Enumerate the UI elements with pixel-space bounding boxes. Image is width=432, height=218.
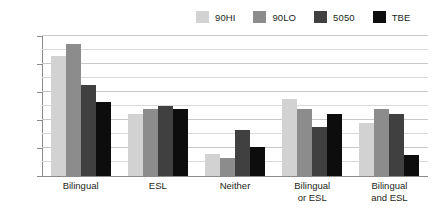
x-axis-category-label: Bilingual [42,180,119,204]
y-axis-tick-mark [37,64,42,65]
x-axis-line [42,176,428,177]
x-axis-category-label: Bilingual and ESL [351,180,428,204]
legend-label: 90LO [272,12,296,23]
legend-swatch-icon [373,11,386,23]
legend-swatch-icon [314,11,327,23]
x-axis-category-label: Bilingual or ESL [274,180,351,204]
legend-label: TBE [392,12,411,23]
plot-area [42,36,428,176]
y-axis-tick-mark [37,176,42,177]
bar[interactable] [327,114,342,176]
bar[interactable] [312,127,327,176]
bar[interactable] [389,114,404,176]
legend-entry[interactable]: 90LO [253,11,296,23]
legend-entry[interactable]: TBE [373,11,411,23]
bar[interactable] [297,109,312,176]
bars-layer [42,36,428,176]
legend-label: 90HI [215,12,235,23]
bar[interactable] [66,44,81,176]
bar[interactable] [158,106,173,176]
y-axis-tick-mark [37,92,42,93]
bar[interactable] [359,123,374,176]
bar[interactable] [173,109,188,176]
y-axis-tick-mark [37,120,42,121]
bar[interactable] [81,85,96,176]
bar[interactable] [96,102,111,176]
bar-chart: 90HI90LO5050TBE 0%20%40%60%80%100% Bilin… [0,0,432,218]
legend-label: 5050 [333,12,355,23]
x-axis-category-label: ESL [119,180,196,204]
legend-entry[interactable]: 5050 [314,11,355,23]
bar[interactable] [128,114,143,176]
bar-group [119,36,196,176]
bar[interactable] [404,155,419,176]
legend-swatch-icon [196,11,209,23]
y-axis-tick-mark [37,148,42,149]
x-axis-category-label: Neither [196,180,273,204]
bar[interactable] [220,158,235,176]
chart-legend: 90HI90LO5050TBE [196,9,410,25]
bar-group [42,36,119,176]
bar[interactable] [235,130,250,176]
bar[interactable] [250,147,265,176]
bar[interactable] [51,56,66,176]
bar-group [351,36,428,176]
bar[interactable] [374,109,389,176]
legend-swatch-icon [253,11,266,23]
bar[interactable] [205,154,220,176]
bar-group [196,36,273,176]
bar-group [274,36,351,176]
bar[interactable] [282,99,297,176]
legend-entry[interactable]: 90HI [196,11,235,23]
x-axis-labels: BilingualESLNeitherBilingual or ESLBilin… [42,180,428,204]
bar[interactable] [143,109,158,176]
y-axis-tick-mark [37,36,42,37]
